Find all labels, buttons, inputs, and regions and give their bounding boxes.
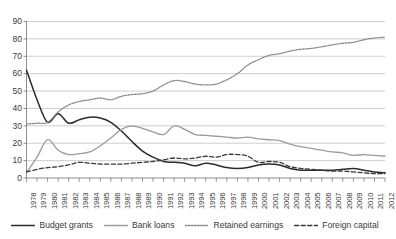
legend-item[interactable]: Bank loans [104, 221, 175, 230]
x-tick-label: 1981 [61, 193, 69, 210]
x-tick-label: 2007 [335, 193, 343, 210]
x-tick-label: 1991 [167, 193, 175, 210]
x-tick-label: 2008 [346, 193, 354, 210]
x-tick-label: 1984 [93, 193, 101, 210]
x-tick-label: 2011 [377, 193, 385, 209]
x-tick-label: 2006 [325, 193, 333, 210]
x-tick-label: 1988 [135, 193, 143, 210]
x-tick-label: 1982 [72, 193, 80, 210]
x-tick-label: 2009 [356, 193, 364, 210]
legend-label: Budget grants [39, 221, 93, 230]
x-tick-label: 1987 [124, 193, 132, 210]
x-tick-label: 2002 [283, 193, 291, 210]
x-tick-label: 2000 [261, 193, 269, 210]
x-tick-label: 1994 [198, 193, 206, 210]
x-tick-label: 1998 [240, 193, 248, 210]
x-tick-label: 2003 [293, 193, 301, 210]
x-tick-label: 2004 [304, 193, 312, 210]
x-tick-label: 1985 [103, 193, 111, 210]
x-tick-label: 1978 [30, 193, 38, 210]
chart-legend: Budget grantsBank loansRetained earnings… [0, 214, 390, 236]
x-tick-label: 1989 [145, 193, 153, 210]
x-tick-label: 2012 [388, 193, 396, 210]
x-tick-label: 2005 [314, 193, 322, 210]
x-tick-label: 1990 [156, 193, 164, 210]
legend-label: Foreign capital [322, 221, 378, 230]
legend-item[interactable]: Retained earnings [185, 221, 283, 230]
line-dotted-swatch [185, 222, 209, 229]
legend-label: Bank loans [132, 221, 175, 230]
x-tick-label: 1993 [188, 193, 196, 210]
x-tick-label: 1992 [177, 193, 185, 210]
x-tick-label: 1997 [230, 193, 238, 210]
line-solid-dark-swatch [11, 222, 35, 229]
legend-item[interactable]: Budget grants [11, 221, 93, 230]
x-tick-label: 1983 [82, 193, 90, 210]
x-tick-label: 2010 [367, 193, 375, 210]
x-tick-label: 2001 [272, 193, 280, 210]
line-solid-gray-swatch [104, 222, 128, 229]
x-tick-label: 1980 [51, 193, 59, 210]
x-tick-label: 1999 [251, 193, 259, 210]
line-dashed-swatch [294, 222, 318, 229]
x-tick-label: 1996 [219, 193, 227, 210]
legend-item[interactable]: Foreign capital [294, 221, 378, 230]
x-tick-label: 1995 [209, 193, 217, 210]
legend-label: Retained earnings [213, 221, 283, 230]
x-tick-label: 1986 [114, 193, 122, 210]
x-tick-label: 1979 [40, 193, 48, 210]
